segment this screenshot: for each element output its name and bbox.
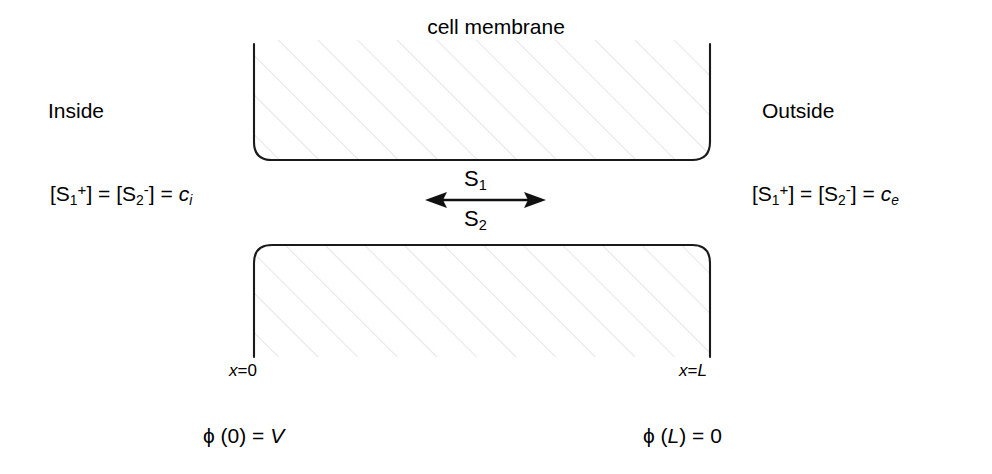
- phi-symbol-left: ϕ: [203, 424, 215, 447]
- bracket-close-1: ]: [86, 182, 92, 205]
- upper-membrane-block: [250, 36, 714, 164]
- phi-argument-right: L: [668, 424, 680, 447]
- equals-4: =: [863, 182, 875, 205]
- outside-species2-subscript: 2: [838, 192, 846, 208]
- inside-c-subscript: i: [189, 192, 192, 208]
- phi-value-left: V: [270, 424, 284, 447]
- bracket-close-4: ]: [851, 182, 857, 205]
- bracket-close-2: ]: [149, 182, 155, 205]
- species1-subscript: 1: [479, 177, 487, 193]
- inside-species2-symbol: S: [122, 182, 136, 205]
- inside-species1-subscript: 1: [70, 192, 78, 208]
- inside-species2-subscript: 2: [136, 192, 144, 208]
- transport-double-arrow-icon: [425, 192, 546, 208]
- lower-membrane-block: [250, 241, 714, 361]
- equals-2: =: [161, 182, 173, 205]
- lower-block-hatching: [250, 241, 714, 361]
- phi-symbol-right: ϕ: [643, 424, 655, 447]
- outside-species1-symbol: S: [758, 182, 772, 205]
- phi-value-right: ) = 0: [679, 424, 722, 447]
- x-position-right-label: x=L: [679, 362, 707, 379]
- outside-c-symbol: c: [881, 182, 892, 205]
- membrane-diagram: [0, 0, 992, 474]
- inside-c-symbol: c: [179, 182, 190, 205]
- inside-concentration-value: ci: [179, 182, 193, 205]
- species-label-above-arrow: S1: [464, 168, 487, 193]
- species1-symbol: S: [464, 166, 479, 191]
- phi-argument-left: (0) =: [215, 424, 270, 447]
- x-equals-right: =: [688, 361, 698, 380]
- inside-species1-symbol: S: [56, 182, 70, 205]
- inside-region-label: Inside: [48, 100, 104, 121]
- x-value-left: =0: [238, 361, 257, 380]
- outside-c-subscript: e: [891, 192, 899, 208]
- x-position-left-label: x=0: [229, 362, 257, 379]
- species2-symbol: S: [464, 206, 479, 231]
- upper-block-hatching: [250, 36, 714, 164]
- species-label-below-arrow: S2: [464, 208, 487, 233]
- outside-species2-symbol: S: [824, 182, 838, 205]
- outside-species1-subscript: 1: [772, 192, 780, 208]
- equals-3: =: [800, 182, 812, 205]
- outside-concentration-equation: [S1+] = [S2-] = ce: [752, 182, 899, 208]
- x-value-right: L: [697, 361, 706, 380]
- phi-paren-open-right: (: [655, 424, 668, 447]
- potential-boundary-condition-right: ϕ (L) = 0: [643, 425, 722, 446]
- x-variable-right: x: [679, 361, 688, 380]
- bracket-close-3: ]: [788, 182, 794, 205]
- species2-subscript: 2: [479, 217, 487, 233]
- potential-boundary-condition-left: ϕ (0) = V: [203, 425, 284, 446]
- equals-1: =: [98, 182, 110, 205]
- inside-concentration-equation: [S1+] = [S2-] = ci: [50, 182, 192, 208]
- page-title: cell membrane: [0, 16, 992, 37]
- outside-region-label: Outside: [762, 100, 834, 121]
- x-variable-left: x: [229, 361, 238, 380]
- outside-concentration-value: ce: [881, 182, 899, 205]
